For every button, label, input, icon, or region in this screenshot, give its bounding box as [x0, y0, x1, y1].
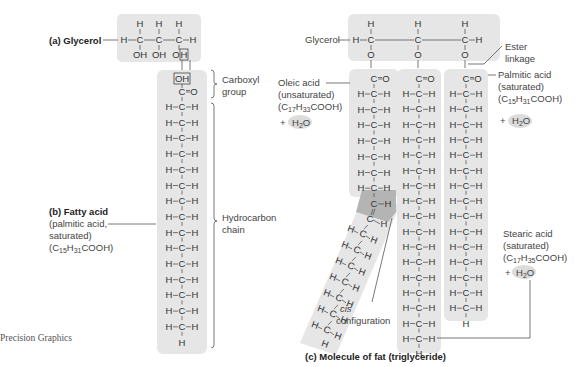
- svg-text:H: H: [384, 182, 391, 193]
- svg-text:H: H: [429, 256, 436, 267]
- svg-text:C: C: [179, 274, 186, 285]
- svg-text:C: C: [463, 149, 470, 160]
- svg-text:H: H: [429, 241, 436, 252]
- svg-text:C: C: [179, 132, 186, 143]
- glycerol-molecule-a: H H H H C C C H OH OH O H: [117, 14, 201, 62]
- svg-text:C: C: [416, 333, 423, 344]
- svg-text:H: H: [429, 210, 436, 221]
- svg-text:C: C: [416, 103, 423, 114]
- svg-text:O: O: [474, 73, 481, 84]
- svg-text:H: H: [403, 210, 410, 221]
- svg-text:C: C: [416, 256, 423, 267]
- svg-text:H: H: [403, 333, 410, 344]
- svg-text:C: C: [371, 104, 378, 115]
- svg-text:O: O: [367, 49, 374, 60]
- svg-text:OH: OH: [133, 49, 147, 60]
- svg-text:H: H: [358, 182, 365, 193]
- svg-text:H: H: [429, 318, 436, 329]
- svg-text:C: C: [179, 289, 186, 300]
- svg-text:H: H: [358, 104, 365, 115]
- svg-text:H: H: [192, 274, 199, 285]
- svg-text:O: O: [382, 73, 389, 84]
- svg-text:H: H: [166, 101, 173, 112]
- svg-text:C: C: [416, 73, 423, 84]
- svg-text:H: H: [476, 149, 483, 160]
- svg-text:C: C: [179, 211, 186, 222]
- svg-text:(palmitic acid,: (palmitic acid,: [49, 218, 107, 229]
- atom-h: H: [156, 18, 163, 29]
- svg-text:H: H: [403, 149, 410, 160]
- svg-text:H: H: [384, 167, 391, 178]
- svg-text:H: H: [476, 272, 483, 283]
- svg-text:H: H: [358, 88, 365, 99]
- svg-text:H: H: [192, 132, 199, 143]
- svg-text:C: C: [179, 321, 186, 332]
- svg-text:H: H: [403, 256, 410, 267]
- svg-text:C: C: [463, 103, 470, 114]
- svg-text:C: C: [179, 148, 186, 159]
- svg-text:H: H: [403, 119, 410, 130]
- svg-text:C: C: [179, 242, 186, 253]
- svg-text:H: H: [358, 135, 365, 146]
- svg-text:C: C: [179, 164, 186, 175]
- svg-text:H: H: [358, 167, 365, 178]
- svg-text:H: H: [192, 242, 199, 253]
- svg-text:H: H: [450, 119, 457, 130]
- svg-text:C: C: [371, 151, 378, 162]
- svg-text:H: H: [166, 321, 173, 332]
- svg-text:C: C: [416, 180, 423, 191]
- svg-text:H: H: [181, 49, 188, 60]
- svg-text:C: C: [137, 34, 144, 45]
- svg-text:C: C: [416, 318, 423, 329]
- svg-text:O: O: [190, 86, 197, 97]
- svg-text:H: H: [450, 287, 457, 298]
- svg-text:H: H: [476, 195, 483, 206]
- svg-text:C: C: [416, 287, 423, 298]
- svg-text:H: H: [450, 134, 457, 145]
- svg-text:H: H: [166, 117, 173, 128]
- svg-text:H: H: [192, 117, 199, 128]
- svg-text:H: H: [384, 88, 391, 99]
- svg-text:H: H: [403, 241, 410, 252]
- svg-text:H: H: [166, 132, 173, 143]
- svg-text:C: C: [371, 182, 378, 193]
- svg-text:H: H: [450, 88, 457, 99]
- svg-text:linkage: linkage: [505, 53, 535, 64]
- svg-text:saturated): saturated): [49, 230, 92, 241]
- svg-text:C: C: [416, 165, 423, 176]
- svg-text:H: H: [450, 165, 457, 176]
- svg-text:C: C: [463, 73, 470, 84]
- atom-h: H: [137, 18, 144, 29]
- svg-text:C: C: [416, 302, 423, 313]
- svg-text:C: C: [415, 34, 422, 45]
- svg-text:C: C: [179, 227, 186, 238]
- fat-structure-diagram: H H H H C C C H OH OH O H (a) Glycerol O…: [0, 0, 588, 367]
- svg-text:H: H: [476, 302, 483, 313]
- svg-text:C: C: [371, 198, 378, 209]
- svg-text:H: H: [166, 211, 173, 222]
- svg-text:H: H: [450, 256, 457, 267]
- stearic-formula: (C17H35COOH): [503, 252, 567, 264]
- svg-text:H: H: [166, 227, 173, 238]
- svg-text:H: H: [192, 101, 199, 112]
- svg-text:C: C: [367, 213, 374, 224]
- svg-text:OH: OH: [152, 49, 166, 60]
- svg-text:H: H: [358, 119, 365, 130]
- stearic-name: Stearic acid: [503, 228, 553, 239]
- svg-text:C: C: [463, 256, 470, 267]
- svg-text:H: H: [450, 226, 457, 237]
- svg-text:H: H: [450, 149, 457, 160]
- svg-text:(saturated): (saturated): [503, 240, 549, 251]
- palmitic-formula: (C15H31COOH): [498, 93, 562, 105]
- oleic-formula: (C17H33COOH): [278, 101, 342, 113]
- svg-text:C: C: [463, 241, 470, 252]
- svg-text:H: H: [476, 165, 483, 176]
- svg-text:H: H: [384, 151, 391, 162]
- svg-text:H: H: [450, 195, 457, 206]
- svg-text:H: H: [403, 103, 410, 114]
- svg-text:H: H: [179, 337, 186, 348]
- oleic-name: Oleic acid: [278, 77, 320, 88]
- svg-text:H: H: [384, 135, 391, 146]
- svg-text:H: H: [384, 119, 391, 130]
- svg-text:H: H: [462, 18, 469, 29]
